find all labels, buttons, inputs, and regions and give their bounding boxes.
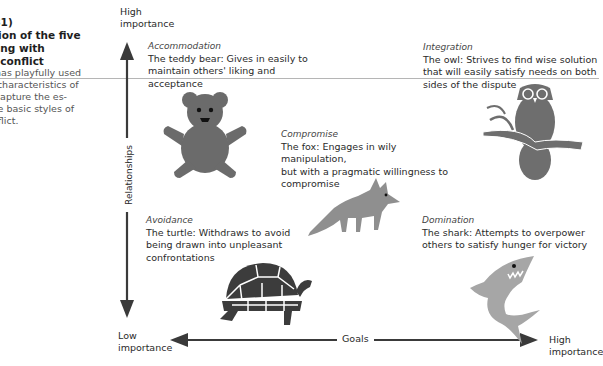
x-axis-low-label: Low importance	[118, 330, 172, 354]
style-description-line: being drawn into unpleasant	[146, 239, 306, 252]
style-domination: Domination The shark: Attempts to overpo…	[422, 214, 599, 252]
style-name: Compromise	[281, 128, 451, 141]
style-name: Avoidance	[146, 214, 306, 227]
label-line: High	[120, 6, 174, 18]
teddy-bear-icon	[160, 90, 250, 180]
style-description-line: acceptance	[148, 78, 318, 91]
label-line: importance	[549, 346, 603, 358]
style-description-line: The turtle: Withdraws to avoid	[146, 227, 306, 240]
style-description-line: The fox: Engages in wily manipulation,	[281, 141, 451, 166]
style-description-line: that will easily satisfy needs on both	[423, 66, 599, 79]
label-line: importance	[120, 18, 174, 30]
style-name: Accommodation	[148, 40, 318, 53]
y-axis-title: Relationships	[124, 138, 134, 212]
label-line: High	[549, 334, 603, 346]
y-axis-top-label: High importance	[120, 6, 174, 30]
fox-icon	[300, 170, 410, 250]
label-line: importance	[118, 342, 172, 354]
style-description-line: The shark: Attempts to overpower	[422, 227, 599, 240]
style-name: Integration	[423, 41, 599, 54]
owl-icon	[475, 80, 585, 190]
style-description-line: others to satisfy hunger for victory	[422, 239, 599, 252]
style-description-line: maintain others' liking and	[148, 65, 318, 78]
style-description-line: The teddy bear: Gives in easily to	[148, 53, 318, 66]
style-accommodation: Accommodation The teddy bear: Gives in e…	[148, 40, 318, 90]
style-description-line: The owl: Strives to find wise solution	[423, 54, 599, 67]
x-axis-high-label: High importance	[549, 334, 603, 358]
turtle-icon	[218, 255, 313, 330]
x-axis-title: Goals	[337, 333, 374, 344]
shark-icon	[462, 252, 542, 347]
style-name: Domination	[422, 214, 599, 227]
label-line: Low	[118, 330, 172, 342]
